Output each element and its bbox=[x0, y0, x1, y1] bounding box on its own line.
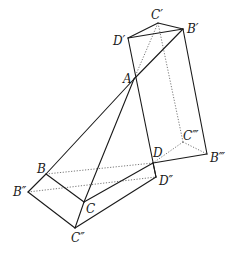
edge-B-C bbox=[46, 174, 84, 202]
label-B2: B″ bbox=[12, 185, 27, 199]
geometry-diagram: C′ B′ D′ A C‴ B‴ D D″ B B″ C C″ bbox=[0, 0, 236, 254]
edge-A-C bbox=[84, 79, 134, 202]
edge-B2-C2 bbox=[28, 192, 75, 228]
hidden-edges bbox=[28, 23, 207, 192]
edge-C1-B1 bbox=[158, 23, 183, 29]
vertex-labels: C′ B′ D′ A C‴ B‴ D D″ B B″ C C″ bbox=[12, 8, 226, 245]
edge-B1-A bbox=[134, 29, 183, 79]
label-D2: D″ bbox=[158, 174, 174, 188]
label-C3: C‴ bbox=[183, 129, 199, 143]
edge-C3-B3 bbox=[183, 142, 207, 154]
visible-edges bbox=[28, 23, 207, 228]
label-A: A bbox=[122, 72, 132, 86]
edge-B2-D2 bbox=[28, 177, 156, 192]
edge-C-C2 bbox=[75, 202, 84, 228]
label-C2: C″ bbox=[71, 231, 85, 245]
label-B: B bbox=[36, 162, 46, 176]
edge-D1-D2 bbox=[128, 38, 156, 177]
edge-C1-A bbox=[134, 23, 158, 79]
edge-A-B bbox=[46, 79, 134, 174]
edge-B-B2 bbox=[28, 174, 46, 192]
edge-C1-C3 bbox=[158, 23, 183, 142]
edge-D-D2 bbox=[153, 163, 156, 177]
label-C: C bbox=[86, 202, 95, 216]
label-B1: B′ bbox=[186, 22, 199, 36]
label-C1: C′ bbox=[151, 8, 163, 22]
label-B3: B‴ bbox=[209, 151, 226, 165]
label-D: D bbox=[152, 146, 163, 160]
label-D1: D′ bbox=[112, 34, 126, 48]
